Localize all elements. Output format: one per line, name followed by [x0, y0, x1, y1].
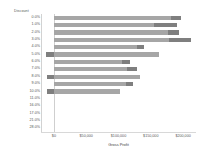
bar-segment-light [54, 89, 121, 93]
category-label: 28.0% [10, 126, 40, 130]
bar-segment-light [54, 52, 159, 56]
value-tick-label: $0 [52, 134, 56, 138]
bar-segment-dark [154, 23, 177, 27]
bar-segment-dark [47, 75, 54, 79]
bar-row[interactable] [41, 45, 196, 49]
bar-segment-dark [127, 67, 137, 71]
bar-segment-dark [169, 38, 191, 42]
category-label: 11.0% [10, 97, 40, 101]
category-label: 9.0% [10, 82, 40, 86]
category-label: 0.0% [10, 16, 40, 20]
category-label: 2.0% [10, 31, 40, 35]
bar-segment-light [54, 30, 168, 34]
category-axis-title: Discount [14, 9, 29, 13]
bar-segment-light [54, 38, 169, 42]
bar-row[interactable] [41, 52, 196, 56]
bar-row[interactable] [41, 89, 196, 93]
plot-area [41, 14, 196, 132]
category-label: 1.0% [10, 23, 40, 27]
bar-segment-dark [46, 52, 54, 56]
bar-segment-dark [168, 30, 180, 34]
gross-profit-by-discount-chart: Discount 0.0%1.0%2.0%3.0%4.0%5.0%6.0%7.0… [0, 0, 202, 161]
bar-segment-dark [137, 45, 145, 49]
value-tick-label: $200,000 [175, 134, 190, 138]
category-label: 7.0% [10, 67, 40, 71]
category-label: 10.0% [10, 90, 40, 94]
category-label: 4.0% [10, 45, 40, 49]
bar-segment-light [54, 67, 127, 71]
value-axis-line [41, 132, 196, 133]
category-label: 21.0% [10, 119, 40, 123]
value-axis-title: Gross Profit [41, 142, 196, 147]
value-tick-label: $50,000 [80, 134, 93, 138]
value-tick-label: $100,000 [111, 134, 126, 138]
bar-row[interactable] [41, 67, 196, 71]
bar-row[interactable] [41, 30, 196, 34]
bar-row[interactable] [41, 16, 196, 20]
bar-row[interactable] [41, 38, 196, 42]
bar-segment-dark [126, 82, 132, 86]
category-axis-labels: 0.0%1.0%2.0%3.0%4.0%5.0%6.0%7.0%8.0%9.0%… [10, 14, 40, 132]
bar-segment-light [54, 82, 126, 86]
category-label: 5.0% [10, 53, 40, 57]
bar-segment-dark [171, 16, 181, 20]
value-tick-label: $150,000 [143, 134, 158, 138]
value-axis-labels: $0$50,000$100,000$150,000$200,000 [41, 134, 196, 142]
bar-segment-light [54, 75, 140, 79]
category-label: 6.0% [10, 60, 40, 64]
bar-segment-dark [122, 60, 130, 64]
bar-row[interactable] [41, 60, 196, 64]
bar-row[interactable] [41, 82, 196, 86]
bar-row[interactable] [41, 75, 196, 79]
category-label: 17.0% [10, 112, 40, 116]
bar-segment-light [54, 45, 137, 49]
category-label: 16.0% [10, 104, 40, 108]
category-label: 3.0% [10, 38, 40, 42]
category-label: 8.0% [10, 75, 40, 79]
bar-segment-light [54, 16, 172, 20]
bar-row[interactable] [41, 23, 196, 27]
bar-segment-light [54, 23, 154, 27]
bar-segment-light [54, 60, 122, 64]
